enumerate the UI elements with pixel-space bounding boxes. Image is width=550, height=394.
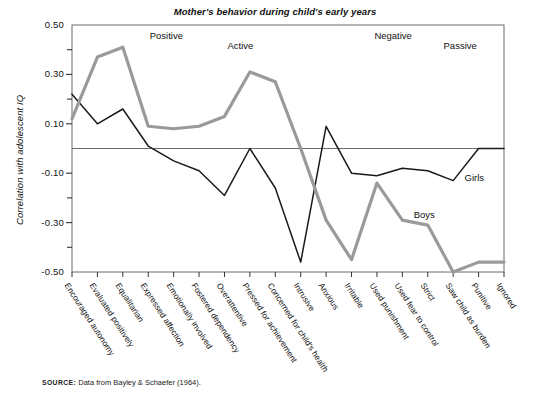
y-tick-label: 0.10 [28, 118, 64, 129]
source-note: SOURCE: Data from Bayley & Schaefer (196… [42, 378, 201, 387]
series-line-boys [72, 47, 504, 272]
region-label-passive: Passive [444, 40, 477, 51]
source-text: Data from Bayley & Schaefer (1964). [78, 378, 201, 387]
chart-title: Mother's behavior during child's early y… [0, 6, 550, 17]
series-annotation-boys: Boys [414, 209, 435, 220]
region-label-negative: Negative [374, 30, 412, 41]
region-label-positive: Positive [150, 30, 183, 41]
source-prefix: SOURCE: [42, 379, 76, 386]
chart-figure: Mother's behavior during child's early y… [0, 0, 550, 394]
y-tick-label: -0.50 [28, 266, 64, 277]
y-tick-label: -0.30 [28, 217, 64, 228]
y-tick-label: -0.10 [28, 167, 64, 178]
series-annotation-girls: Girls [465, 172, 485, 183]
y-tick-label: 0.30 [28, 68, 64, 79]
region-label-active: Active [228, 40, 254, 51]
y-tick-label: 0.50 [28, 19, 64, 30]
y-axis-label: Correlation with adolescent IQ [14, 95, 25, 225]
